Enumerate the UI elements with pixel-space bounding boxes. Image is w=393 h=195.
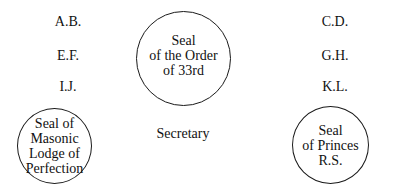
seal-text-line: Seal xyxy=(171,33,195,48)
seal-text-line: Lodge of xyxy=(29,146,80,161)
secretary-label: Secretary xyxy=(157,126,210,142)
signatory-ef: E.F. xyxy=(57,48,79,64)
seal-masonic-lodge: Seal of Masonic Lodge of Perfection xyxy=(17,108,92,184)
seal-text-line: R.S. xyxy=(318,153,342,168)
seal-text-line: Masonic xyxy=(30,131,78,146)
seal-text-line: of the Order xyxy=(149,48,217,63)
signatory-ij: I.J. xyxy=(59,79,76,95)
seal-text-line: Seal of xyxy=(35,116,74,131)
signatory-ab: A.B. xyxy=(55,14,81,30)
seal-text-line: of Princes xyxy=(302,138,358,153)
signatory-cd: C.D. xyxy=(322,14,348,30)
seal-text-line: Perfection xyxy=(26,161,84,176)
signatory-gh: G.H. xyxy=(321,48,348,64)
seal-text-line: of 33rd xyxy=(163,63,204,78)
seal-text-line: Seal xyxy=(318,123,342,138)
seal-order-33rd: Seal of the Order of 33rd xyxy=(136,11,231,106)
signatory-kl: K.L. xyxy=(322,79,348,95)
seal-princes: Seal of Princes R.S. xyxy=(292,106,369,184)
